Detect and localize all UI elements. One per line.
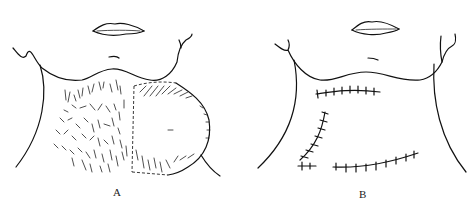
chin-mark-b [368, 58, 378, 60]
neck-right-b [434, 64, 466, 172]
lips-a [93, 23, 144, 35]
suture-line-bottom-b [298, 151, 418, 172]
illustration: A [0, 0, 473, 206]
panel-b: B [258, 21, 466, 200]
jaw-line-a [13, 34, 192, 80]
hair-strokes-a [54, 80, 127, 172]
lips-b [352, 21, 399, 34]
neck-right-a [201, 155, 220, 176]
panel-a: A [13, 23, 220, 198]
incision-dashed-vertical-a [132, 86, 134, 172]
panel-label-b: B [359, 188, 366, 200]
suture-line-side-b [300, 112, 328, 160]
suture-line-top-b [316, 86, 380, 98]
chin-mark-a [109, 56, 119, 58]
jaw-line-b [275, 34, 456, 80]
panel-label-a: A [113, 186, 121, 198]
neck-left-b [258, 60, 297, 168]
incision-dashed-top-a [134, 82, 176, 86]
neck-left-a [16, 65, 44, 167]
